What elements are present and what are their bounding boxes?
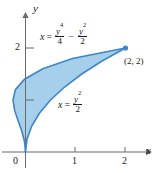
point-coordinate-label: (2, 2)	[124, 57, 144, 66]
eq-top-num-2: y2	[77, 27, 88, 36]
x-tick-label-2: 2	[122, 156, 127, 166]
eq-bottom-lhs: x	[58, 100, 62, 110]
eq-top-lhs: x	[40, 32, 44, 42]
eq-top-minus: −	[67, 32, 75, 42]
eq-top-den-2: 2	[78, 36, 87, 46]
y-tick-label-2: 2	[15, 42, 20, 52]
eq-top-fraction-1: y4 4	[54, 27, 65, 46]
eq-top-num-1: y4	[54, 27, 65, 36]
eq-top-num-1-exp: 4	[60, 21, 63, 28]
eq-bottom-den: 2	[73, 104, 82, 114]
upper-curve-equation: x = y4 4 − y2 2	[40, 27, 88, 46]
x-tick-label-1: 1	[72, 156, 77, 166]
eq-top-equals: =	[46, 32, 52, 42]
point-marker	[123, 45, 128, 50]
x-axis-label: x	[146, 145, 151, 156]
y-axis-arrow	[22, 12, 28, 18]
eq-bottom-equals: =	[64, 100, 70, 110]
eq-top-den-1: 4	[55, 36, 64, 46]
math-figure: x y 0 1 2 2 (2, 2) x = y4 4 − y2 2 x = y…	[0, 0, 158, 173]
eq-bottom-fraction: y2 2	[72, 95, 83, 114]
eq-top-num-2-exp: 2	[83, 21, 86, 28]
eq-top-fraction-2: y2 2	[77, 27, 88, 46]
y-axis-label: y	[33, 3, 38, 14]
eq-bottom-num: y2	[72, 95, 83, 104]
lower-curve-equation: x = y2 2	[58, 95, 83, 114]
origin-tick-label: 0	[13, 156, 18, 166]
eq-bottom-num-exp: 2	[78, 89, 81, 96]
